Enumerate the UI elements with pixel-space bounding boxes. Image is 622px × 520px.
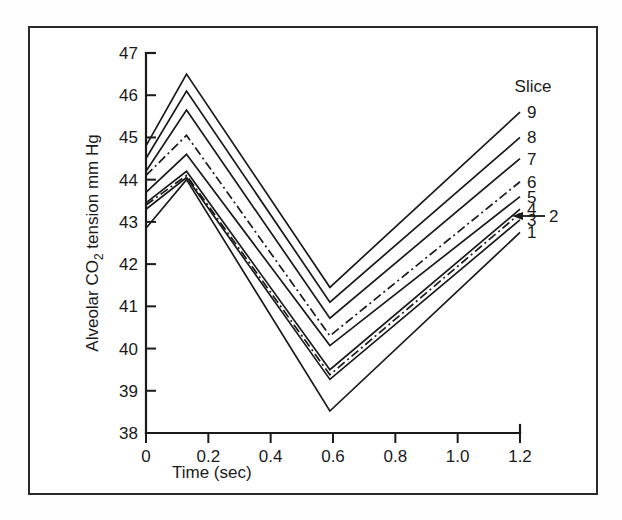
y-tick-label-44: 44 <box>119 171 138 190</box>
series-line-4 <box>146 171 520 369</box>
y-axis-title: Alveolar CO2 tension mm Hg <box>83 134 106 351</box>
x-tick-label-0.6: 0.6 <box>321 447 345 466</box>
figure-root: 38394041424344454647 00.20.40.60.81.01.2… <box>0 0 622 520</box>
y-tick-label-41: 41 <box>119 297 138 316</box>
legend-label-7: 7 <box>527 150 536 169</box>
y-tick-label-38: 38 <box>119 424 138 443</box>
chart-canvas: 38394041424344454647 00.20.40.60.81.01.2… <box>0 0 622 520</box>
y-tick-label-group: 38394041424344454647 <box>119 44 138 443</box>
x-tick-label-0.8: 0.8 <box>384 447 408 466</box>
series-line-6 <box>146 135 520 336</box>
series-line-9 <box>146 74 520 287</box>
y-axis-title-after: tension mm Hg <box>83 134 102 253</box>
x-tick-label-1.2: 1.2 <box>508 447 532 466</box>
y-axis-title-before: Alveolar CO <box>83 260 102 352</box>
legend-label-1: 1 <box>527 223 536 242</box>
y-tick-label-45: 45 <box>119 128 138 147</box>
y-tick-label-43: 43 <box>119 213 138 232</box>
x-axis-title: Time (sec) <box>172 463 252 482</box>
x-tick-group <box>146 433 520 443</box>
y-tick-group <box>146 53 156 433</box>
legend-label-8: 8 <box>527 128 536 147</box>
series-line-5 <box>146 154 520 345</box>
series-group <box>146 74 520 411</box>
x-tick-label-0.4: 0.4 <box>259 447 283 466</box>
y-tick-label-39: 39 <box>119 382 138 401</box>
legend-title: Slice <box>515 77 552 96</box>
legend-label-2: 2 <box>549 207 558 226</box>
svg-text:Alveolar CO2 tension mm Hg: Alveolar CO2 tension mm Hg <box>83 134 106 351</box>
series-line-7 <box>146 110 520 318</box>
legend-label-group: 98765431 <box>527 103 536 242</box>
y-tick-label-47: 47 <box>119 44 138 63</box>
series-line-3 <box>146 178 520 380</box>
x-tick-label-0: 0 <box>141 447 150 466</box>
y-tick-label-46: 46 <box>119 86 138 105</box>
y-tick-label-40: 40 <box>119 340 138 359</box>
legend-label-9: 9 <box>527 103 536 122</box>
x-tick-label-1.0: 1.0 <box>446 447 470 466</box>
y-tick-label-42: 42 <box>119 255 138 274</box>
